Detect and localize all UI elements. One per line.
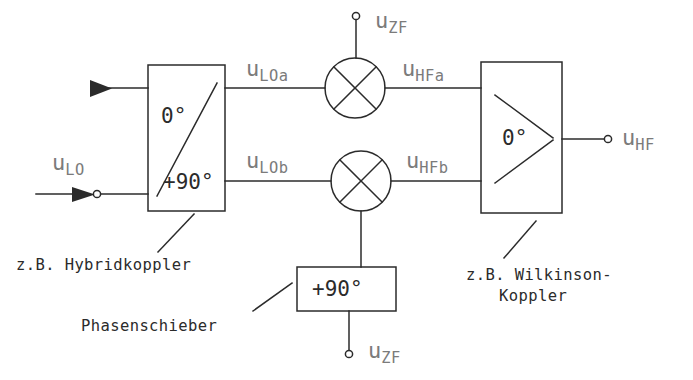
label-u-zf-bottom-base: u <box>368 338 381 363</box>
hybrid-port-top-label: 0° <box>161 104 186 128</box>
label-u-lo: uLO <box>52 152 85 179</box>
lo-input-terminal <box>93 190 100 197</box>
phase-shifter-caption-leader <box>253 283 292 311</box>
zf-top-terminal <box>352 12 359 19</box>
hybrid-caption-leader <box>158 214 194 252</box>
label-u-hfa: uHFa <box>402 58 445 85</box>
hybrid-port-bottom-label: +90° <box>163 170 214 194</box>
phase-shifter-label: +90° <box>312 277 363 301</box>
label-u-hfb-base: u <box>406 148 419 173</box>
label-u-lo-base: u <box>52 150 65 175</box>
label-u-zf-bottom: uZF <box>368 340 401 367</box>
label-u-lob-base: u <box>246 148 259 173</box>
label-u-hf-out-sub: HF <box>635 136 655 154</box>
label-u-zf-top-sub: ZF <box>388 19 408 37</box>
label-u-lo-sub: LO <box>65 161 85 179</box>
wilkinson-label: 0° <box>502 126 527 150</box>
label-u-hfb-sub: HFb <box>419 159 448 177</box>
label-u-hfa-sub: HFa <box>415 67 444 85</box>
label-u-hf-out-base: u <box>622 125 635 150</box>
label-u-loa-base: u <box>246 56 259 81</box>
label-u-zf-bottom-sub: ZF <box>381 349 401 367</box>
wilkinson-coupler-caption-line1: z.B. Wilkinson- <box>466 265 612 286</box>
label-u-hf-out: uHF <box>622 127 655 154</box>
label-u-zf-top: uZF <box>375 10 408 37</box>
block-diagram-canvas: 0° +90° +90° 0° uLO uLOa uLOb uZF uZF uH… <box>0 0 693 380</box>
phase-shifter-caption: Phasenschieber <box>81 316 217 337</box>
label-u-loa: uLOa <box>246 58 289 85</box>
lo-input-arrowhead <box>72 187 95 202</box>
label-u-zf-top-base: u <box>375 8 388 33</box>
label-u-hfb: uHFb <box>406 150 449 177</box>
hf-out-terminal <box>604 135 611 142</box>
hybrid-coupler-caption: z.B. Hybridkoppler <box>16 255 191 276</box>
hybrid-top-arrowhead <box>90 80 112 97</box>
wilkinson-caption-leader <box>504 221 536 258</box>
label-u-hfa-base: u <box>402 56 415 81</box>
wilkinson-coupler-caption-line2: Koppler <box>499 286 567 307</box>
zf-bottom-terminal <box>345 350 352 357</box>
label-u-loa-sub: LOa <box>259 67 288 85</box>
label-u-lob: uLOb <box>246 150 289 177</box>
label-u-lob-sub: LOb <box>259 159 288 177</box>
